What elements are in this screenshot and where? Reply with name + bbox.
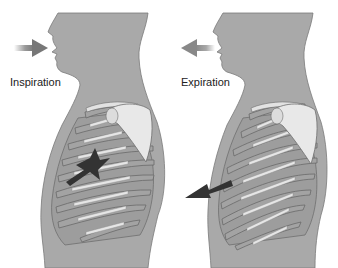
expiration-label: Expiration	[181, 76, 230, 88]
air-inflow-arrow-icon	[14, 39, 48, 57]
air-outflow-arrow-icon	[181, 39, 215, 57]
inspiration-label: Inspiration	[10, 76, 61, 88]
inspiration-illustration	[0, 0, 169, 268]
expiration-figure: Expiration	[169, 0, 338, 268]
inspiration-figure: Inspiration	[0, 0, 169, 268]
expiration-illustration	[169, 0, 338, 268]
